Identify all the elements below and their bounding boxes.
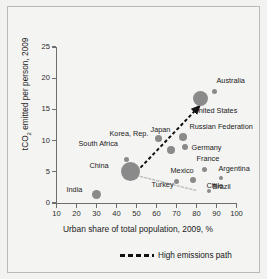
y-tick-label: 20: [34, 74, 50, 82]
y-axis-title-post: emitted per person, 2009: [20, 38, 30, 133]
y-tick-mark: [52, 78, 56, 79]
x-tick-label: 80: [187, 209, 207, 218]
legend-dashed-line-swatch: [120, 254, 154, 257]
point-label-australia: Australia: [217, 77, 245, 85]
point-label-brazil: Brazil: [213, 183, 231, 191]
point-label-germany: Germany: [192, 144, 222, 152]
x-tick-mark: [216, 204, 217, 208]
y-tick-mark: [52, 171, 56, 172]
x-tick-mark: [76, 204, 77, 208]
y-tick-label: 0: [34, 199, 50, 207]
point-label-korea-rep: Korea, Rep.: [110, 130, 149, 138]
data-point-united-states: [193, 91, 208, 106]
x-tick-label-text: 10: [47, 209, 67, 218]
point-label-argentina: Argentina: [219, 165, 250, 173]
data-point-russian-federation: [179, 133, 187, 141]
x-tick-label: 40: [107, 209, 127, 218]
y-tick-label: 5: [34, 168, 50, 176]
x-tick-label: 70: [167, 209, 187, 218]
x-tick-label-text: 20: [67, 209, 87, 218]
point-label-turkey: Turkey: [152, 181, 174, 189]
x-tick-mark: [156, 204, 157, 208]
y-axis-title: tCO2 emitted per person, 2009: [20, 16, 32, 172]
x-tick-label: 10: [47, 209, 67, 218]
x-tick-label-text: 80: [187, 209, 207, 218]
x-tick-label-text: 70: [167, 209, 187, 218]
data-point-argentina: [219, 176, 223, 180]
data-point-india: [92, 190, 101, 199]
x-tick-label: 20: [67, 209, 87, 218]
point-label-china: China: [90, 162, 109, 170]
point-label-russian-federation: Russian Federation: [190, 123, 253, 131]
y-tick-label-text: 25: [34, 43, 50, 51]
x-tick-label: 50: [127, 209, 147, 218]
figure-container: 0510152025 102030405060708090100 tCO2 em…: [0, 0, 267, 279]
x-axis-line: [56, 203, 237, 204]
y-tick-label: 15: [34, 105, 50, 113]
x-tick-mark: [176, 204, 177, 208]
data-point-australia: [212, 89, 217, 94]
data-point-japan: [167, 146, 175, 154]
y-tick-mark: [52, 46, 56, 47]
x-tick-label-text: 30: [87, 209, 107, 218]
point-label-india: India: [67, 186, 83, 194]
point-label-mexico: Mexico: [171, 167, 194, 175]
x-tick-label-text: 50: [127, 209, 147, 218]
data-point-germany: [182, 144, 188, 150]
point-label-south-africa: South Africa: [79, 140, 118, 148]
y-axis-line: [56, 47, 57, 204]
x-tick-mark: [196, 204, 197, 208]
point-label-japan: Japan: [151, 126, 171, 134]
y-tick-mark: [52, 140, 56, 141]
x-tick-label-text: 100: [227, 209, 247, 218]
x-tick-label: 30: [87, 209, 107, 218]
x-tick-label: 100: [227, 209, 247, 218]
x-tick-label-text: 40: [107, 209, 127, 218]
data-point-china: [121, 162, 140, 181]
x-tick-label-text: 60: [147, 209, 167, 218]
x-axis-title: Urban share of total population, 2009, %: [28, 224, 248, 234]
y-tick-label-text: 5: [34, 168, 50, 176]
x-tick-mark: [136, 204, 137, 208]
legend-label: High emissions path: [158, 251, 232, 260]
y-axis-title-pre: tCO: [20, 135, 30, 150]
data-point-korea-rep: [155, 135, 162, 142]
high-emissions-path-arrow: [137, 108, 198, 172]
x-tick-mark: [236, 204, 237, 208]
y-tick-label-text: 20: [34, 74, 50, 82]
data-point-brazil: [207, 189, 211, 193]
chart-legend: High emissions path: [120, 251, 232, 260]
point-label-france: France: [197, 155, 220, 163]
x-tick-label: 60: [147, 209, 167, 218]
y-tick-label-text: 15: [34, 105, 50, 113]
y-axis-title-subscript: 2: [26, 132, 32, 135]
y-tick-label: 25: [34, 43, 50, 51]
x-tick-mark: [56, 204, 57, 208]
x-tick-label: 90: [207, 209, 227, 218]
data-point-mexico: [190, 177, 196, 183]
y-tick-label-text: 0: [34, 199, 50, 207]
y-tick-label-text: 10: [34, 137, 50, 145]
x-tick-label-text: 90: [207, 209, 227, 218]
x-tick-mark: [96, 204, 97, 208]
y-tick-label: 10: [34, 137, 50, 145]
point-label-united-states: United States: [194, 107, 238, 115]
data-point-france: [202, 167, 207, 172]
data-point-turkey: [174, 179, 179, 184]
scatter-plot: 0510152025 102030405060708090100 tCO2 em…: [0, 0, 267, 279]
x-tick-mark: [116, 204, 117, 208]
y-tick-mark: [52, 109, 56, 110]
